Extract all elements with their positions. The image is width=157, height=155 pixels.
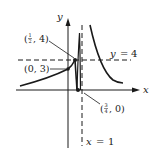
- svg-text:y: y: [109, 48, 116, 59]
- leader-half-4: [49, 41, 74, 58]
- svg-text:2: 2: [29, 38, 32, 44]
- svg-text:=: =: [120, 48, 128, 59]
- svg-text:, 4): , 4): [33, 33, 49, 44]
- spike-curve: [77, 33, 81, 90]
- label-horizontal-asymptote: y = 4: [109, 48, 137, 59]
- svg-text:4: 4: [105, 108, 108, 114]
- label-vertical-asymptote: x = 1: [86, 136, 114, 147]
- point-half-4: [73, 58, 77, 62]
- function-graph: y x ( 1 2 , 4) (0, 3) ( 3 4 , 0) y = 4 x…: [0, 0, 157, 155]
- svg-text:(: (: [24, 33, 28, 44]
- point-three-quarter-0: [76, 88, 80, 92]
- svg-text:(: (: [100, 103, 104, 114]
- leader-three-quarter-0: [84, 93, 100, 104]
- svg-text:4: 4: [131, 48, 137, 59]
- x-axis-arrow-icon: [132, 88, 140, 93]
- svg-text:1: 1: [108, 136, 114, 147]
- label-point-0-3: (0, 3): [24, 63, 50, 74]
- y-axis-arrow-icon: [66, 18, 71, 26]
- label-point-half-4: ( 1 2 , 4): [24, 32, 49, 44]
- point-0-3: [66, 67, 70, 71]
- label-point-three-quarter-0: ( 3 4 , 0): [100, 102, 125, 114]
- svg-text:=: =: [96, 136, 104, 147]
- y-axis-label: y: [56, 11, 63, 22]
- svg-text:, 0): , 0): [109, 103, 125, 114]
- svg-text:x: x: [86, 136, 92, 147]
- x-axis-label: x: [143, 84, 149, 95]
- right-curve: [90, 25, 123, 83]
